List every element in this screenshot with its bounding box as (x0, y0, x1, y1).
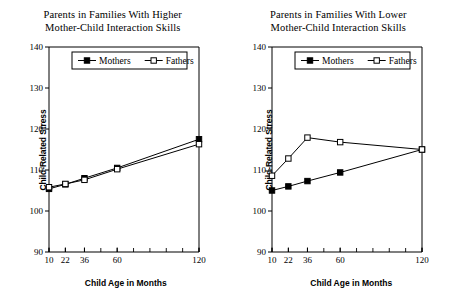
marker-filled-square (285, 184, 290, 189)
legend: MothersFathers (295, 52, 417, 69)
y-tick-label: 110 (252, 165, 266, 175)
x-tick-label: 120 (415, 255, 429, 265)
marker-open-square (337, 139, 342, 144)
figure-two-panel-line-charts: Parents in Families With Higher Mother-C… (0, 0, 451, 294)
y-tick-label: 90 (257, 247, 267, 257)
y-tick-label: 130 (252, 83, 266, 93)
x-tick-label: 22 (283, 255, 292, 265)
x-tick-label: 36 (302, 255, 312, 265)
y-tick-label: 140 (252, 42, 266, 52)
legend-marker-filled-square (307, 58, 312, 63)
legend-marker-filled-square (84, 58, 89, 63)
marker-open-square (63, 181, 68, 186)
y-tick-label: 100 (252, 206, 266, 216)
x-tick-label: 60 (335, 255, 345, 265)
x-tick-label: 10 (45, 255, 55, 265)
plot-area-left: 9010011012013014010223660120MothersFathe… (0, 0, 225, 294)
y-tick-label: 110 (30, 165, 44, 175)
marker-open-square (196, 141, 201, 146)
y-tick-label: 100 (30, 206, 44, 216)
y-tick-label: 130 (30, 83, 44, 93)
marker-open-square (419, 147, 424, 152)
x-tick-label: 36 (80, 255, 90, 265)
panel-lower-interaction-skills: Parents in Families With Lower Mother-Ch… (226, 0, 451, 294)
marker-filled-square (304, 178, 309, 183)
x-axis-label: Child Age in Months (30, 278, 222, 288)
panel-higher-interaction-skills: Parents in Families With Higher Mother-C… (0, 0, 226, 294)
x-tick-label: 60 (113, 255, 123, 265)
x-tick-label: 120 (192, 255, 206, 265)
x-tick-label: 22 (61, 255, 70, 265)
legend-label: Mothers (99, 56, 131, 66)
marker-filled-square (269, 188, 274, 193)
marker-open-square (46, 185, 51, 190)
marker-open-square (304, 135, 309, 140)
marker-open-square (269, 173, 274, 178)
legend-label: Fathers (166, 56, 194, 66)
legend-marker-open-square (151, 58, 156, 63)
marker-open-square (285, 156, 290, 161)
x-tick-label: 10 (267, 255, 277, 265)
marker-open-square (114, 166, 119, 171)
y-tick-label: 120 (252, 124, 266, 134)
series-fathers (269, 135, 424, 179)
legend: MothersFathers (72, 52, 194, 69)
legend-label: Mothers (322, 56, 354, 66)
marker-filled-square (337, 170, 342, 175)
x-axis-label: Child Age in Months (256, 278, 448, 288)
marker-open-square (82, 177, 87, 182)
plot-area-right: 9010011012013014010223660120MothersFathe… (226, 0, 451, 294)
y-tick-label: 120 (30, 124, 44, 134)
y-tick-label: 140 (30, 42, 44, 52)
y-tick-label: 90 (34, 247, 44, 257)
legend-label: Fathers (388, 56, 416, 66)
legend-marker-open-square (374, 58, 379, 63)
